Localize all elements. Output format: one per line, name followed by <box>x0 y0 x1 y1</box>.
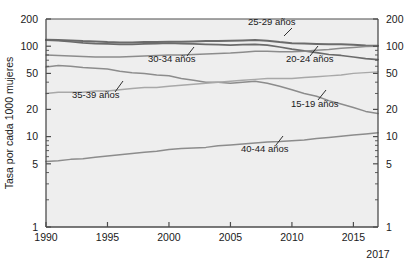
y-tick-label-left: 200 <box>20 13 38 25</box>
annotation-label-25-29: 25-29 años <box>248 16 296 27</box>
x-tick-label: 2005 <box>219 231 243 243</box>
y-tick-label-right: 200 <box>386 13 404 25</box>
y-axis-title: Tasa por cada 1000 mujeres <box>3 57 15 190</box>
x-axis-end-label: 2017 <box>366 248 390 260</box>
x-tick-label: 1990 <box>34 231 58 243</box>
y-tick-label-right: 100 <box>386 40 404 52</box>
y-tick-label-left: 20 <box>26 103 38 115</box>
y-tick-label-left: 100 <box>20 40 38 52</box>
annotation-label-15-19: 15-19 años <box>291 98 339 109</box>
x-tick-label: 1995 <box>96 231 120 243</box>
y-tick-label-left: 50 <box>26 67 38 79</box>
annotation-label-40-44: 40-44 años <box>241 143 289 154</box>
annotation-label-35-39: 35-39 años <box>72 89 120 100</box>
y-tick-label-right: 50 <box>386 67 398 79</box>
y-tick-label-left: 5 <box>32 158 38 170</box>
fertility-rate-chart: 2002001001005050202010105511 19901995200… <box>0 0 415 263</box>
y-tick-label-right: 5 <box>386 158 392 170</box>
y-tick-label-right: 20 <box>386 103 398 115</box>
y-tick-label-right: 10 <box>386 130 398 142</box>
annotation-label-20-24: 20-24 años <box>286 53 334 64</box>
y-tick-label-right: 1 <box>386 221 392 233</box>
chart-svg: 2002001001005050202010105511 19901995200… <box>0 0 415 263</box>
x-tick-label: 2015 <box>342 231 366 243</box>
x-tick-label: 2010 <box>280 231 304 243</box>
y-tick-label-left: 10 <box>26 130 38 142</box>
x-tick-label: 2000 <box>157 231 181 243</box>
